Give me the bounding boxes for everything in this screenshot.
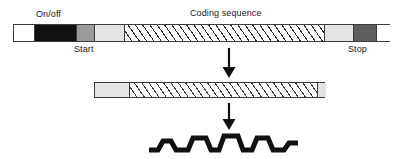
segment-divider [94,25,95,41]
start-region [76,25,94,41]
leader-region [94,25,124,41]
segment-divider [376,25,377,41]
transcript-bar [94,82,325,98]
transcript-coding [129,83,317,97]
coding-sequence-label: Coding sequence [190,8,262,18]
transcript-leader [95,83,129,97]
stop-region [353,25,376,41]
transcription-arrow [218,46,240,80]
start-label: Start [74,44,94,54]
protein-chain [146,130,302,156]
segment-divider [124,25,125,41]
gene-bar [13,24,390,42]
segment-divider [353,25,354,41]
coding-sequence-region [124,25,324,41]
translation-arrow [218,102,240,132]
gene-expression-figure: On/off Coding sequence Start Stop [0,0,403,159]
stop-label: Stop [348,44,367,54]
segment-divider [324,25,325,41]
downstream-white-region [376,25,391,41]
trailer-region [324,25,353,41]
segment-divider [129,83,130,97]
upstream-white-region [14,25,34,41]
on-off-label: On/off [36,9,61,19]
segment-divider [76,25,77,41]
transcript-trailer [317,83,326,97]
segment-divider [317,83,318,97]
segment-divider [34,25,35,41]
on-off-region [34,25,76,41]
